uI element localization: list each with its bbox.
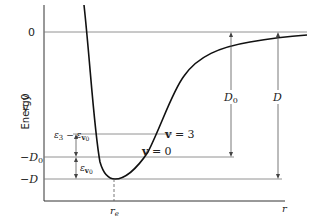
- eps3-minus-epsv0-label: ε3 − εv0: [54, 130, 89, 142]
- arrowhead-up-icon: [229, 32, 233, 37]
- D-label: D: [272, 91, 282, 104]
- v3-label: v = 3: [164, 128, 195, 141]
- arrowhead-down-icon: [229, 152, 233, 157]
- arrowhead-up-icon: [74, 157, 78, 162]
- minus-D-label: −D: [20, 173, 38, 186]
- minus-D0-label: −D0: [20, 151, 43, 165]
- arrowhead-up-icon: [276, 32, 280, 37]
- eps-v0-label: εv0: [80, 163, 93, 175]
- re-label: re: [110, 205, 119, 218]
- negative-label: < 0: [19, 93, 32, 113]
- r-axis-label: r: [282, 203, 288, 214]
- arrowhead-down-icon: [74, 152, 78, 157]
- zero-label: 0: [28, 26, 35, 39]
- v0-label: v = 0: [141, 145, 172, 158]
- arrowhead-down-icon: [74, 174, 78, 179]
- arrowhead-down-icon: [276, 174, 280, 179]
- potential-energy-diagram: 0 Energy < 0 −D0 −D ε3 − εv0 εv0 v = 3 v…: [0, 0, 314, 221]
